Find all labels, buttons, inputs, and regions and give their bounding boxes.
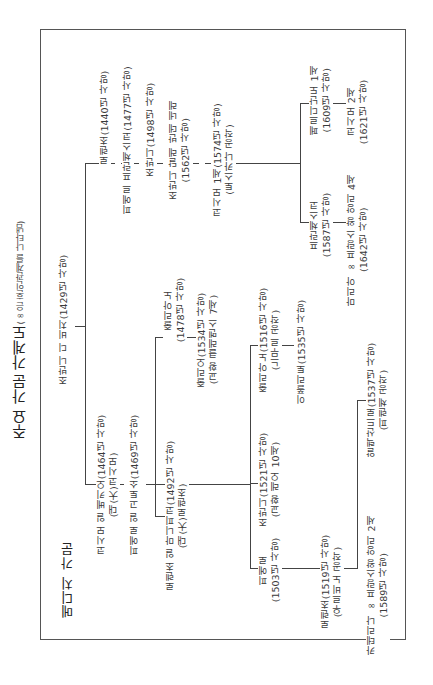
node-text: 줄리오(1534년 사망) bbox=[196, 293, 208, 388]
node-text: 이폴리토(1535년 사망) bbox=[296, 300, 308, 405]
node-giuliano-1478: 줄리아노 (1478년 사망) bbox=[163, 276, 187, 345]
node-pierfrancesco: 피에르 프란체스코(1477년 사망) bbox=[122, 64, 134, 216]
node-text: 프란체스코 bbox=[309, 193, 321, 258]
connector bbox=[186, 484, 250, 485]
node-text: 코시모 1세(1574년 사망) bbox=[212, 103, 224, 217]
node-text: 조반니(1521년 사망) bbox=[258, 433, 270, 528]
diagram-title: 주요 가문 가계도(∞은 혼인관계를 나타냄) bbox=[10, 221, 31, 439]
node-text: 피에로 bbox=[258, 538, 270, 603]
node-francesco: 프란체스코 (1587년 사망) bbox=[309, 191, 333, 260]
node-alessandro: 알렉산드로(1537년 사망) (피렌체 공작) bbox=[366, 341, 390, 460]
node-text: (1562년 사망) bbox=[180, 100, 192, 199]
node-text: (대(大)코시모) bbox=[108, 415, 120, 556]
node-text: 피에르 프란체스코(1477년 사망) bbox=[122, 66, 134, 214]
node-lorenzo-urbino: 로렌초(1519년 사망) (우르비노 공작) bbox=[320, 533, 344, 632]
connector bbox=[280, 345, 294, 346]
node-text: (대(大)로렌초) bbox=[177, 441, 189, 592]
node-text: (1589년 사망) bbox=[378, 515, 390, 654]
connector bbox=[155, 337, 156, 517]
node-text: 코시모 2세 bbox=[346, 80, 358, 145]
title-main: 주요 가문 가계도 bbox=[12, 325, 30, 440]
node-giuliano-1516: 줄리아노(1516년 사망) (느무르 공작) bbox=[258, 286, 282, 395]
node-text: (느무르 공작) bbox=[270, 288, 282, 393]
node-piero-1503: 피에로 (1503년 사망) bbox=[258, 536, 282, 605]
node-text: (1503년 사망) bbox=[270, 538, 282, 603]
node-ippolito: 이폴리토(1535년 사망) bbox=[296, 298, 308, 407]
node-caterina: 카테리나 ∞ 프랑스왕 앙리 2세 (1589년 사망) bbox=[366, 513, 390, 656]
node-text: 로렌초 일 마니피코(1492년 사망) bbox=[165, 441, 177, 592]
node-cosimo-il-vecchio: 코시모 일 베키오(1464년 사망) (대(大)코시모) bbox=[96, 413, 120, 558]
node-text: 로렌초(1519년 사망) bbox=[320, 535, 332, 630]
node-lorenzo-il-magnifico: 로렌초 일 마니피코(1492년 사망) (대(大)로렌초) bbox=[165, 439, 189, 594]
node-text: 카테리나 ∞ 프랑스왕 앙리 2세 bbox=[366, 515, 378, 654]
family-label: 메디치 가문 bbox=[59, 542, 78, 617]
node-text: 로렌초(1440년 사망) bbox=[99, 71, 111, 166]
connector bbox=[85, 163, 97, 164]
node-lorenzo-1440: 로렌초(1440년 사망) bbox=[99, 69, 111, 168]
node-maria: 마리아 ∞ 프랑스 왕 앙리 4세 (1642년 사망) bbox=[346, 172, 370, 308]
node-ferdinando-1: 페르디난도 1세 (1609년 사망) bbox=[309, 63, 333, 136]
connector bbox=[155, 516, 165, 517]
node-text: 알렉산드로(1537년 사망) bbox=[366, 343, 378, 458]
node-cosimo-1: 코시모 1세(1574년 사망) (토스카나 공작) bbox=[212, 101, 236, 219]
node-text: 페르디난도 1세 bbox=[309, 65, 321, 134]
node-giulio: 줄리오(1534년 사망) (교황 클레멘스 7세) bbox=[196, 291, 220, 390]
node-piero-il-gottoso: 피에로 일 고토소(1469년 사망) bbox=[129, 413, 141, 558]
node-text: (교황 레오 10세) bbox=[270, 433, 282, 528]
node-text: (1609년 사망) bbox=[321, 65, 333, 134]
node-text: (1478년 사망) bbox=[175, 278, 187, 343]
node-text: 줄리아노(1516년 사망) bbox=[258, 288, 270, 393]
node-giovanni-1498: 조반니(1498년 사망) bbox=[145, 81, 157, 180]
node-text: (교황 클레멘스 7세) bbox=[208, 293, 220, 388]
node-text: 마리아 ∞ 프랑스 왕 앙리 4세 bbox=[346, 174, 358, 306]
connector bbox=[250, 345, 251, 569]
node-text: (1642년 사망) bbox=[358, 174, 370, 306]
node-giovanni-bande-nere: 조반니 달레 반데 네레 (1562년 사망) bbox=[168, 98, 192, 201]
node-text: 조반니 달레 반데 네레 bbox=[168, 100, 180, 199]
node-giovanni-leo-x: 조반니(1521년 사망) (교황 레오 10세) bbox=[258, 431, 282, 530]
title-note: (∞은 혼인관계를 나타냄) bbox=[16, 221, 26, 325]
connector bbox=[357, 400, 358, 569]
connector bbox=[300, 103, 301, 223]
connector bbox=[232, 163, 300, 164]
node-text: (1587년 사망) bbox=[321, 193, 333, 258]
node-text: 줄리아노 bbox=[163, 278, 175, 343]
node-text: (피렌체 공작) bbox=[378, 343, 390, 458]
node-text: 코시모 일 베키오(1464년 사망) bbox=[96, 415, 108, 556]
node-giovanni-di-bicci: 조반니 디 비치(1429년 사망) bbox=[58, 253, 70, 388]
connector bbox=[280, 568, 324, 569]
node-text: (우르비노 공작) bbox=[332, 535, 344, 630]
node-text: (토스카나 공작) bbox=[224, 103, 236, 217]
node-text: 조반니 디 비치(1429년 사망) bbox=[58, 255, 70, 386]
node-text: 피에로 일 고토소(1469년 사망) bbox=[129, 415, 141, 556]
node-text: (1621년 사망) bbox=[358, 80, 370, 145]
connector bbox=[85, 163, 86, 485]
connector bbox=[75, 326, 85, 327]
node-text: 조반니(1498년 사망) bbox=[145, 83, 157, 178]
node-cosimo-2: 코시모 2세 (1621년 사망) bbox=[346, 78, 370, 147]
